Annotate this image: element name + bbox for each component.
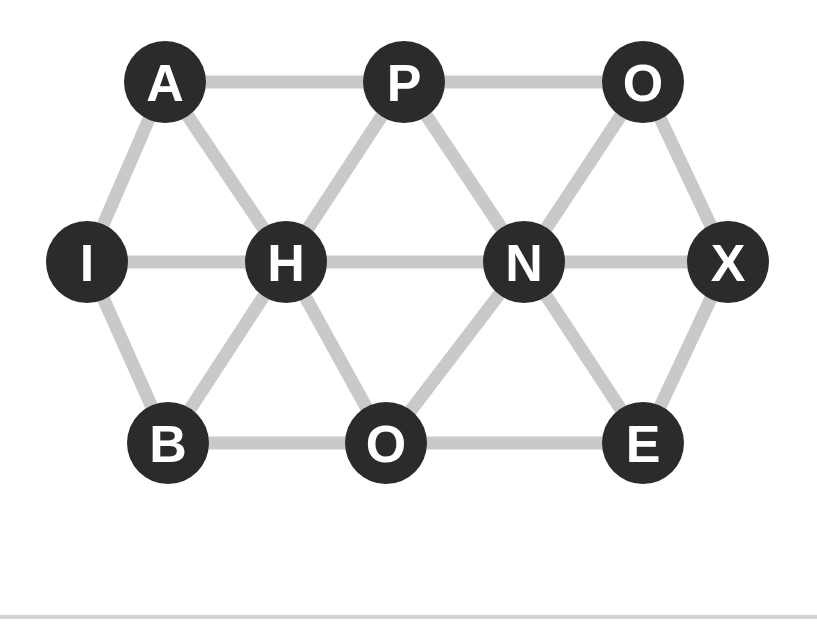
graph-node-n6[interactable]: N xyxy=(483,221,565,303)
edges-layer xyxy=(87,82,728,443)
node-label: I xyxy=(80,234,94,292)
node-label: N xyxy=(505,234,543,292)
node-label: B xyxy=(149,415,187,473)
graph-node-n7[interactable]: X xyxy=(687,221,769,303)
graph-node-n3[interactable]: O xyxy=(602,41,684,123)
node-label: P xyxy=(387,54,422,112)
answer-area xyxy=(0,510,817,625)
graph-canvas: APOIHNXBOE xyxy=(0,0,817,520)
graph-node-n4[interactable]: I xyxy=(46,221,128,303)
node-label: A xyxy=(146,54,184,112)
node-label: X xyxy=(711,234,746,292)
graph-node-n9[interactable]: O xyxy=(345,402,427,484)
graph-node-n1[interactable]: A xyxy=(124,41,206,123)
graph-node-n2[interactable]: P xyxy=(363,41,445,123)
bottom-divider xyxy=(0,615,817,619)
node-label: O xyxy=(366,415,406,473)
graph-node-n8[interactable]: B xyxy=(127,402,209,484)
letter-graph-puzzle: APOIHNXBOE xyxy=(0,0,817,625)
node-label: O xyxy=(623,54,663,112)
node-label: H xyxy=(267,234,305,292)
graph-node-n5[interactable]: H xyxy=(245,221,327,303)
graph-node-n10[interactable]: E xyxy=(602,402,684,484)
node-label: E xyxy=(626,415,661,473)
